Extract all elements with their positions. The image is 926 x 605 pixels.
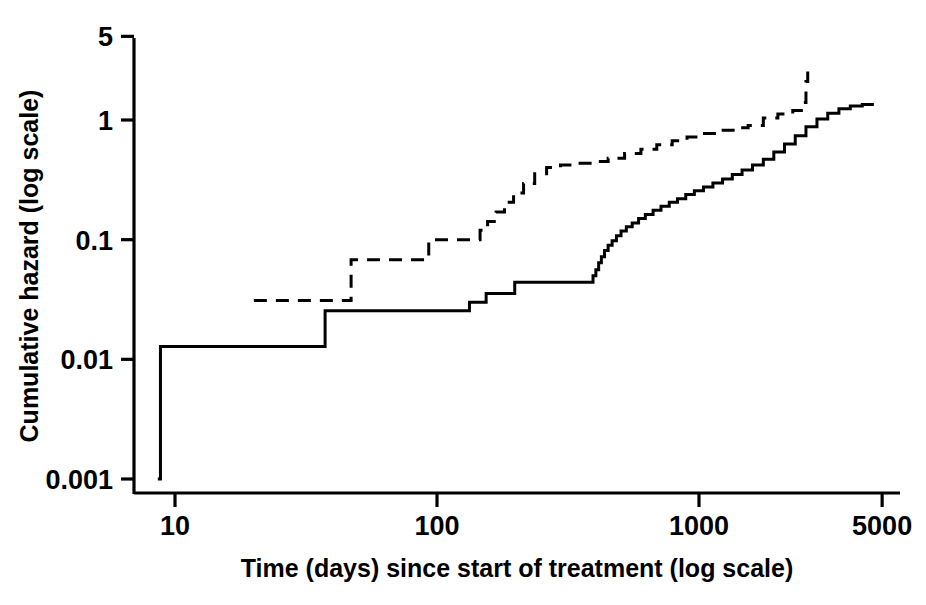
x-tick-label-1000: 1000 bbox=[669, 511, 729, 541]
series-dashed-curve bbox=[254, 66, 808, 300]
y-tick-label-0.01: 0.01 bbox=[60, 345, 113, 375]
cumulative-hazard-plot: 0.0010.010.115 1010010005000 Time (days)… bbox=[0, 0, 926, 605]
x-tick-label-100: 100 bbox=[414, 511, 459, 541]
y-axis-title: Cumulative hazard (log scale) bbox=[15, 90, 43, 443]
y-axis-ticks bbox=[121, 36, 134, 479]
x-tick-label-5000: 5000 bbox=[852, 511, 912, 541]
x-axis-title: Time (days) since start of treatment (lo… bbox=[241, 554, 793, 582]
axis-lines bbox=[134, 38, 900, 494]
y-tick-label-1: 1 bbox=[98, 106, 113, 136]
data-series-group bbox=[158, 66, 874, 479]
y-tick-label-5: 5 bbox=[98, 22, 113, 52]
y-axis-tick-labels: 0.0010.010.115 bbox=[45, 22, 113, 495]
y-tick-label-0.001: 0.001 bbox=[45, 465, 113, 495]
y-tick-label-0.1: 0.1 bbox=[75, 226, 113, 256]
x-axis-ticks bbox=[175, 493, 882, 507]
x-tick-label-10: 10 bbox=[160, 511, 190, 541]
chart-figure: 0.0010.010.115 1010010005000 Time (days)… bbox=[0, 0, 926, 605]
x-axis-tick-labels: 1010010005000 bbox=[160, 511, 912, 541]
series-solid-curve bbox=[158, 104, 874, 479]
